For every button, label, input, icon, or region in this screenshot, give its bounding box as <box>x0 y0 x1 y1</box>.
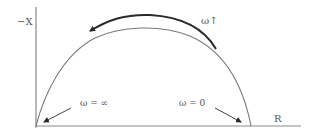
direction-label: ω↑ <box>201 15 218 26</box>
high-freq-pointer-arrow <box>44 108 71 122</box>
x-axis-label: R <box>274 113 282 124</box>
low-freq-label: ω = 0 <box>179 98 206 108</box>
frequency-direction-arrow <box>90 15 216 49</box>
impedance-curve <box>36 28 251 126</box>
y-axis-label: −X <box>17 16 33 27</box>
high-freq-label: ω = ∞ <box>80 98 108 108</box>
nyquist-diagram: −X R ω↑ ω = ∞ ω = 0 <box>0 0 311 137</box>
low-freq-pointer-arrow <box>215 108 241 122</box>
